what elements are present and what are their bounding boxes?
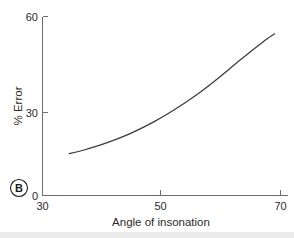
y-tick-label-30: 30 (26, 107, 38, 119)
data-series-line (69, 34, 274, 154)
x-tick-label-50: 50 (154, 200, 166, 212)
x-tick-label-70: 70 (274, 200, 286, 212)
y-axis-title: % Error (12, 86, 24, 125)
error-vs-angle-line-chart: 60 30 0 30 50 70 Angle of insonation % E… (0, 0, 294, 238)
bottom-strip (0, 232, 294, 238)
y-tick-label-60: 60 (26, 11, 38, 23)
x-axis-title: Angle of insonation (112, 216, 210, 228)
x-tick-label-30: 30 (36, 200, 48, 212)
figure-panel-b: 60 30 0 30 50 70 Angle of insonation % E… (0, 0, 294, 238)
panel-letter-label: B (15, 182, 23, 194)
